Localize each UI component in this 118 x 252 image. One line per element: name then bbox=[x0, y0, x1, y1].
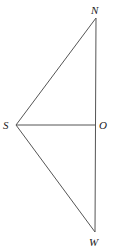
label-n: N bbox=[90, 4, 99, 16]
segment-sn bbox=[16, 18, 96, 125]
label-s: S bbox=[3, 119, 9, 131]
label-o: O bbox=[99, 119, 107, 131]
segment-sw bbox=[16, 125, 95, 232]
triangle-diagram: N S O W bbox=[0, 0, 118, 252]
label-w: W bbox=[89, 236, 99, 248]
